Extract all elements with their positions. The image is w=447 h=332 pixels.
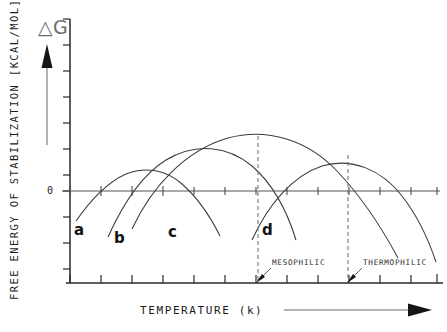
x-axis-label: TEMPERATURE (k) (140, 304, 263, 317)
y-direction-arrow (42, 44, 53, 145)
mesophilic-region-label: MESOPHILIC (272, 258, 325, 267)
y-axis-label: FREE ENERGY OF STABILIZATION [KCAL/MOL] (8, 0, 20, 300)
x-axis-ticks (70, 274, 437, 283)
x-direction-arrow (284, 304, 432, 317)
thermophilic-region-label: THERMOPHILIC (363, 258, 427, 267)
curve-a (76, 170, 220, 236)
stability-temperature-figure: FREE ENERGY OF STABILIZATION [KCAL/MOL] … (0, 0, 447, 332)
curve-label-b: b (114, 229, 125, 247)
plot-canvas: FREE ENERGY OF STABILIZATION [KCAL/MOL] … (0, 0, 447, 332)
zero-level-label: 0 (47, 185, 53, 196)
curve-label-d: d (262, 221, 273, 239)
y-axis-ticks (63, 19, 70, 269)
curve-label-a: a (74, 221, 84, 239)
curve-label-c: c (168, 223, 177, 241)
